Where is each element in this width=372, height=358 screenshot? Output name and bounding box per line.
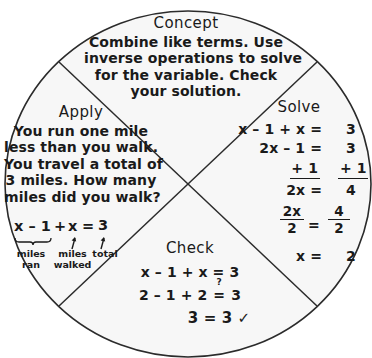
check-line-1: x – 1 + x = 3 [110, 264, 270, 287]
check-line-1-text: x – 1 + x = 3 [141, 264, 240, 280]
solve-final-rhs: 2 [338, 248, 364, 265]
solve-rule-right [338, 178, 368, 179]
solve-step-1-lhs: x – 1 + x = [238, 121, 322, 138]
check-question-equals: ? = [212, 287, 226, 304]
quadrant-apply: Apply You run one mile less than you wal… [4, 104, 158, 205]
solve-heading: Solve [238, 99, 370, 117]
solve-step-2-rhs: 3 [338, 140, 364, 157]
concept-line-2: inverse operations to solve [84, 50, 288, 67]
solve-rule-left [290, 178, 320, 179]
solve-fraction-right: 4 2 [328, 204, 350, 235]
solve-final-lhs: x = [296, 248, 322, 265]
apply-heading: Apply [4, 104, 158, 122]
quadrant-check: Check x – 1 + x = 3 2 – 1 + 2 ? = 3 3 = … [110, 240, 270, 333]
apply-annotation-miles-ran-line2: ran [22, 259, 40, 270]
check-equals-sign: = [213, 287, 225, 303]
apply-line-5: miles did you walk? [4, 189, 158, 206]
solve-fraction-right-denominator: 2 [328, 221, 350, 235]
solve-step-1-rhs: 3 [338, 121, 364, 138]
concept-heading: Concept [84, 15, 288, 33]
solve-step-3-add-one: + 1 + 1 [238, 160, 370, 180]
solve-fraction-left: 2x 2 [280, 204, 304, 235]
concept-line-1: Combine like terms. Use [84, 34, 288, 51]
apply-line-4: 3 miles. How many [4, 172, 158, 189]
quadrant-concept: Concept Combine like terms. Use inverse … [84, 15, 288, 100]
brace-under-braced-term [15, 238, 51, 245]
check-heading: Check [110, 240, 270, 258]
solve-step-2: 2x – 1 = 3 [238, 140, 370, 160]
apply-annotation-miles-ran: miles ran [12, 249, 50, 270]
solve-step-3-rhs: + 1 [340, 160, 366, 177]
check-line-2-right: 3 [231, 287, 241, 303]
check-line-3: 3 = 3 ✓ [110, 310, 270, 333]
solve-step-2-lhs: 2x – 1 = [259, 140, 322, 157]
solve-fraction-left-numerator: 2x [280, 204, 304, 218]
check-question-mark: ? [217, 277, 222, 288]
apply-annotation-miles-walked-line1: miles [58, 248, 87, 259]
concept-wheel-diagram: Concept Combine like terms. Use inverse … [0, 0, 372, 358]
check-line-2-left: 2 – 1 + 2 [139, 287, 207, 303]
solve-step-1: x – 1 + x = 3 [238, 121, 370, 140]
solve-step-4: 2x = 4 [238, 180, 370, 202]
apply-annotation-miles-ran-line1: miles [17, 248, 46, 259]
apply-line-1: You run one mile [4, 123, 158, 140]
check-line-2: 2 – 1 + 2 ? = 3 [110, 287, 270, 310]
apply-line-3: You travel a total of [4, 156, 158, 173]
apply-annotation-miles-walked-line2: walked [54, 259, 92, 270]
solve-fraction-right-numerator: 4 [328, 204, 350, 218]
solve-step-4-lhs: 2x = [286, 182, 322, 199]
concept-line-4: your solution. [84, 83, 288, 100]
solve-step-4-rhs: 4 [338, 182, 364, 199]
concept-line-3: for the variable. Check [84, 67, 288, 84]
solve-step-3-lhs: + 1 [291, 160, 318, 177]
check-line-3-text: 3 = 3 ✓ [188, 309, 250, 327]
apply-line-2: less than you walk. [4, 139, 158, 156]
solve-fraction-left-denominator: 2 [280, 221, 304, 235]
solve-division-equals: = [308, 217, 320, 234]
